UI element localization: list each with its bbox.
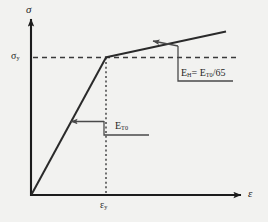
hardening-modulus-rhs-subscript: T0 (206, 71, 213, 78)
yield-stress-subscript: y (16, 54, 19, 61)
elastic-branch-line (32, 58, 107, 195)
hardening-modulus-divisor: /65 (213, 67, 226, 78)
elastic-modulus-subscript: T0 (121, 124, 128, 131)
yield-strain-tick-label: εy (100, 200, 107, 210)
stress-strain-plot-canvas (0, 0, 268, 222)
yield-stress-tick-label: σy (11, 51, 19, 61)
yield-strain-subscript: y (104, 203, 107, 210)
y-axis-label: σ (26, 4, 31, 15)
hardening-modulus-annotation: EH= ET0/65 (181, 68, 225, 78)
hardening-modulus-equals: = E (192, 67, 206, 78)
x-axis-label: ε (248, 188, 252, 199)
stress-strain-figure: σ ε σy εy ET0 EH= ET0/65 (0, 0, 268, 222)
hardening-branch-line (105, 32, 226, 58)
elastic-modulus-annotation: ET0 (115, 121, 128, 131)
